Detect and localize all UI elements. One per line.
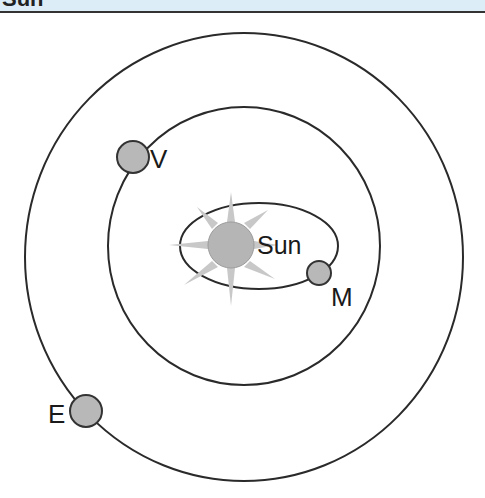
venus-label: V [150, 144, 168, 174]
earth-planet [70, 395, 102, 427]
mercury-planet [307, 261, 331, 285]
mercury-label: M [331, 282, 353, 312]
earth-label: E [48, 399, 65, 429]
sun-label: Sun [257, 231, 301, 259]
solar-system-diagram: Sun V M E [0, 0, 485, 498]
venus-planet [117, 141, 149, 173]
sun [208, 222, 254, 268]
